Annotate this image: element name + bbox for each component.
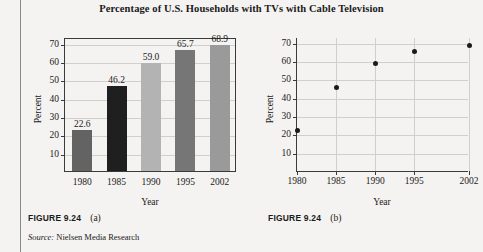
caption-b-label: FIGURE 9.24 [268,213,321,223]
scatter-chart-y-tick [293,80,297,81]
bar-value-label: 46.2 [108,76,125,86]
scatter-chart-x-tick [375,171,376,175]
scatter-chart-gridline [297,135,468,136]
bar-chart-y-tick [61,136,65,137]
caption-figure-a: FIGURE 9.24(a) [28,213,101,223]
bar-chart-y-tick [61,100,65,101]
scatter-chart-y-tick-label: 30 [282,112,292,122]
figure-page: Percentage of U.S. Households with TVs w… [0,0,483,252]
scatter-chart-y-tick-label: 60 [282,57,292,67]
scatter-chart-x-tick-label: 1985 [327,177,346,187]
bar-value-label: 59.0 [143,53,160,63]
bar-chart-figure-9-24-a: Percent 1020304050607022.6198046.2198559… [26,30,241,202]
scatter-chart-x-tick [297,171,298,175]
bar-chart-y-tick [61,155,65,156]
scatter-chart-vgridline [375,38,376,171]
scatter-chart-gridline [297,44,468,45]
scatter-data-point [334,85,339,90]
bar-chart-x-tick-label: 1980 [73,178,92,188]
source-text: Nielsen Media Research [54,232,139,242]
bar [107,86,127,171]
caption-b-part: (b) [330,213,341,223]
caption-a-part: (a) [90,213,101,223]
scatter-chart-x-tick-label: 2002 [460,177,479,187]
bar [72,130,92,171]
scatter-chart-gridline [297,154,468,155]
scatter-chart-vgridline [336,38,337,171]
bar-value-label: 65.7 [177,40,194,50]
bar-chart-x-tick-label: 2002 [210,178,229,188]
bar [175,50,195,171]
scatter-data-point [412,49,417,54]
bar-chart-y-tick-label: 40 [50,95,60,105]
scatter-chart-gridline [297,99,468,100]
bar-chart-y-tick-label: 50 [50,76,60,86]
scatter-chart-x-tick-label: 1980 [288,177,307,187]
scatter-chart-x-tick [336,171,337,175]
bar-chart-x-tick-label: 1990 [142,178,161,188]
bar-chart-x-tick-label: 1995 [176,178,195,188]
scatter-chart-y-tick [293,62,297,63]
scatter-chart-gridline [297,62,468,63]
scatter-chart-y-tick [293,99,297,100]
scatter-chart-plot-area: 1020304050607019801985199019952002 [296,38,468,172]
scatter-chart-y-tick-label: 10 [282,149,292,159]
scatter-chart-x-axis-title: Year [296,197,468,207]
source-label: Source: [28,232,54,242]
bar-chart-x-tick-label: 1985 [107,178,126,188]
bar-chart-y-tick [61,81,65,82]
bar [210,45,230,171]
bar-chart-y-tick [61,118,65,119]
bar-chart-x-axis-title: Year [64,197,236,207]
scatter-chart-vgridline [469,38,470,171]
scatter-data-point [295,128,300,133]
page-margin-rule [20,0,21,252]
scatter-chart-y-tick [293,154,297,155]
scatter-chart-x-tick-label: 1995 [405,177,424,187]
bar [141,63,161,171]
bar-chart-y-tick-label: 20 [50,132,60,142]
bar-value-label: 22.6 [74,120,91,130]
scatter-chart-y-axis-title: Percent [265,81,275,137]
scatter-chart-y-tick-label: 50 [282,75,292,85]
bar-chart-y-tick [61,45,65,46]
scatter-chart-y-tick [293,135,297,136]
scatter-data-point [467,43,472,48]
scatter-chart-x-tick [414,171,415,175]
scatter-data-point [373,61,378,66]
scatter-chart-x-tick-label: 1990 [366,177,385,187]
source-note: Source: Nielsen Media Research [28,232,139,242]
scatter-chart-y-tick-label: 70 [282,39,292,49]
scatter-chart-y-tick [293,44,297,45]
scatter-chart-vgridline [414,38,415,171]
caption-figure-b: FIGURE 9.24(b) [268,213,341,223]
scatter-chart-gridline [297,117,468,118]
scatter-chart-y-tick-label: 40 [282,94,292,104]
caption-a-label: FIGURE 9.24 [28,213,81,223]
bar-chart-plot-area: 1020304050607022.6198046.2198559.0199065… [64,38,236,172]
scatter-chart-x-tick [469,171,470,175]
figure-title: Percentage of U.S. Households with TVs w… [0,3,483,14]
bar-chart-y-tick-label: 30 [50,113,60,123]
bar-chart-y-tick [61,63,65,64]
bar-chart-y-tick-label: 10 [50,150,60,160]
scatter-chart-y-tick-label: 20 [282,131,292,141]
bar-chart-y-tick-label: 60 [50,58,60,68]
bar-value-label: 68.9 [211,35,228,45]
scatter-chart-figure-9-24-b: Percent 10203040506070198019851990199520… [258,30,473,202]
scatter-chart-gridline [297,80,468,81]
bar-chart-y-tick-label: 70 [50,40,60,50]
bar-chart-y-axis-title: Percent [33,81,43,137]
scatter-chart-y-tick [293,117,297,118]
